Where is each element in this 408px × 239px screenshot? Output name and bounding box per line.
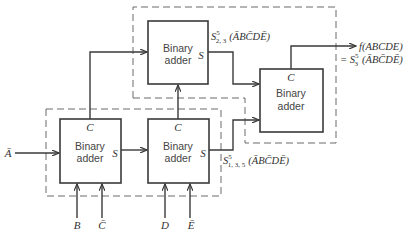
svg-text:= S53(ĀBC̄DĒ): = S53(ĀBC̄DĒ): [340, 52, 403, 68]
adder-top: Binary adder S: [148, 21, 208, 84]
adder-label-line2: adder: [165, 152, 192, 164]
output-f-label: f(ABCDE): [359, 41, 403, 53]
adder-bottom-mid: C Binary adder S: [148, 119, 209, 183]
input-c-bar: C̄: [98, 219, 106, 231]
adder-label-line1: Binary: [163, 140, 194, 152]
input-e-bar: Ē: [187, 219, 195, 231]
input-d: D: [160, 219, 169, 231]
pin-s: S: [198, 49, 204, 61]
input-a-bar: Ā: [4, 147, 12, 159]
pin-c: C: [86, 121, 94, 133]
adder-label-line1: Binary: [163, 42, 194, 54]
pin-s: S: [200, 147, 206, 159]
adder-label-line2: adder: [165, 54, 192, 66]
pin-c: C: [287, 71, 295, 83]
diagram-canvas: Binary adder S C Binary adder C Binary a…: [0, 0, 408, 239]
wire-mid-s-to-right: [209, 120, 259, 150]
adder-bottom-left: C Binary adder S: [60, 119, 121, 183]
adder-label-line1: Binary: [276, 87, 307, 99]
annotation-s135: S51, 3, 5(ĀBC̄DĒ): [223, 153, 290, 169]
svg-text:S51, 3, 5(ĀBC̄DĒ): S51, 3, 5(ĀBC̄DĒ): [223, 153, 290, 169]
annotation-s23: S52, 3(ĀBC̄DĒ): [211, 29, 271, 45]
wire-top-s-to-right: [208, 52, 259, 84]
output-equation: = S53(ĀBC̄DĒ): [340, 52, 403, 68]
pin-s: S: [112, 147, 118, 159]
svg-text:S52, 3(ĀBC̄DĒ): S52, 3(ĀBC̄DĒ): [211, 29, 271, 45]
adder-right: C Binary adder: [260, 69, 323, 132]
adder-label-line2: adder: [77, 152, 104, 164]
adder-label-line2: adder: [278, 100, 305, 112]
input-b: B: [74, 219, 81, 231]
pin-c: C: [174, 121, 182, 133]
adder-label-line1: Binary: [75, 140, 106, 152]
